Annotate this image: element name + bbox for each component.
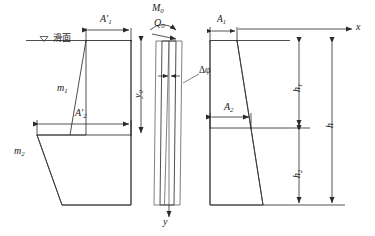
label-a2: A2 xyxy=(224,102,234,113)
label-axis-x: x xyxy=(356,22,360,32)
label-h: h xyxy=(325,123,335,128)
dphi-leader xyxy=(183,74,199,83)
m2-sub: 2 xyxy=(21,150,24,157)
label-h2: h2 xyxy=(292,170,303,178)
q0-sub: 0 xyxy=(161,22,164,29)
label-y0: y0 xyxy=(133,90,144,98)
middle-deflection-group xyxy=(141,25,199,218)
left-structure-outline xyxy=(37,41,131,206)
figure-canvas: 滑面 A′1 A′2 m1 m2 M0 Q0 Δφ y0 y x A1 A2 h… xyxy=(0,0,375,236)
h2-sub: 2 xyxy=(296,170,303,173)
a2p-sub: 2 xyxy=(83,112,86,119)
m0-sub: 0 xyxy=(160,7,163,14)
y0-base: y xyxy=(132,94,143,98)
shear-arrow-q0 xyxy=(152,34,176,39)
y0-sub: 0 xyxy=(137,90,144,93)
casing-left-edge xyxy=(154,41,156,205)
h2-base: h xyxy=(291,173,302,178)
label-a1: A1 xyxy=(217,15,226,25)
label-delta-phi: Δφ xyxy=(199,66,211,76)
pile-deflected-axis xyxy=(165,41,170,205)
right-section-group xyxy=(210,27,352,205)
casing-right-edge xyxy=(180,41,182,205)
pile-left-edge xyxy=(160,41,162,205)
a2-sub: 2 xyxy=(230,106,233,113)
h1-sub: 1 xyxy=(296,84,303,87)
label-axis-y: y xyxy=(163,217,167,227)
label-m1: m1 xyxy=(57,83,68,94)
label-a2-prime: A′2 xyxy=(75,108,87,119)
slide-surface-label: 滑面 xyxy=(53,31,71,44)
right-structure-outline xyxy=(210,41,263,206)
label-m0: M0 xyxy=(152,3,164,14)
h1-base: h xyxy=(291,87,302,92)
label-h1: h1 xyxy=(292,84,303,92)
label-m2: m2 xyxy=(14,146,25,157)
slope-line-m1 xyxy=(70,41,86,136)
label-q0: Q0 xyxy=(154,18,165,29)
pile-right-edge xyxy=(174,41,176,205)
label-a1-prime: A′1 xyxy=(100,14,112,25)
a1p-sub: 1 xyxy=(108,18,111,25)
a1-sub: 1 xyxy=(223,18,226,25)
m1-sub: 1 xyxy=(64,87,67,94)
